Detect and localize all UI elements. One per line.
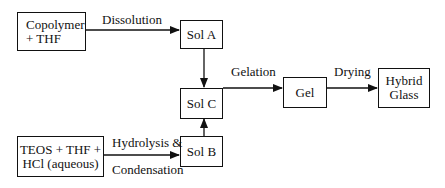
node-hybrid-glass: Hybrid Glass bbox=[378, 68, 430, 108]
edge-label-drying: Drying bbox=[334, 65, 371, 79]
edge-label-dissolution: Dissolution bbox=[102, 13, 162, 27]
edge-label-condensation: Condensation bbox=[112, 163, 184, 177]
node-sol-c: Sol C bbox=[180, 88, 223, 119]
edge-label-hydrolysis: Hydrolysis & bbox=[112, 136, 182, 150]
node-gel: Gel bbox=[283, 77, 327, 108]
node-teos-thf-hcl: TEOS + THF + HCl (aqueous) bbox=[17, 136, 104, 177]
node-sol-a: Sol A bbox=[180, 20, 223, 49]
edge-label-gelation: Gelation bbox=[231, 65, 276, 79]
node-copolymer-thf: Copolymer + THF bbox=[17, 12, 86, 51]
node-sol-b: Sol B bbox=[180, 136, 223, 167]
